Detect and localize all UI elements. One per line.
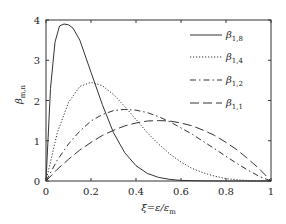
legend-item-1-4: β1,4	[190, 51, 243, 65]
legend-item-1-1: β1,1	[190, 97, 243, 111]
y-tick-label: 4	[34, 15, 40, 26]
legend: β1,8β1,4β1,2β1,1	[190, 29, 243, 111]
x-tick-label: 1	[268, 186, 274, 197]
y-tick-label: 3	[34, 55, 40, 66]
x-tick-label: 0	[43, 186, 49, 197]
legend-item-1-2: β1,2	[190, 74, 243, 88]
legend-item-1-8: β1,8	[190, 29, 243, 43]
x-tick-label: 0.2	[83, 186, 99, 197]
plot-frame	[46, 20, 271, 181]
legend-label: β1,4	[225, 51, 243, 65]
x-tick-label: 0.8	[218, 186, 234, 197]
y-tick-label: 2	[34, 96, 40, 107]
x-tick-label: 0.4	[128, 186, 144, 197]
y-axis-label: βm,n	[13, 84, 27, 105]
x-axis-label: ξ=ε/εm	[141, 202, 176, 216]
y-tick-label: 1	[34, 136, 40, 147]
series-line-1-1	[46, 121, 271, 181]
y-tick-label: 0	[34, 176, 40, 187]
x-tick-label: 0.6	[173, 186, 189, 197]
legend-label: β1,8	[225, 29, 243, 43]
chart: 00.20.40.60.8101234 β1,8β1,4β1,2β1,1 ξ=ε…	[0, 0, 286, 224]
series-line-1-4	[46, 82, 271, 181]
legend-label: β1,1	[225, 97, 243, 111]
legend-label: β1,2	[225, 74, 243, 88]
